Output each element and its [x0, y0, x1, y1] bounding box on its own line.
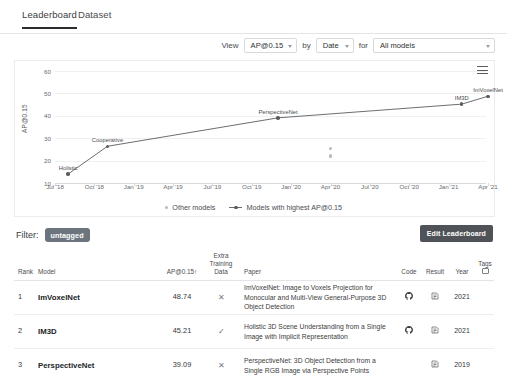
cell-paper[interactable]: PerspectiveNet: 3D Object Detection from… — [238, 356, 396, 376]
cell-model[interactable]: ImVoxelNet — [38, 292, 160, 303]
chart-point-label: Holistic — [59, 165, 78, 171]
legend-line-icon — [229, 206, 242, 210]
cross-icon: ✕ — [218, 361, 225, 370]
header-tags[interactable]: Tags — [476, 260, 494, 276]
cell-paper[interactable]: Holistic 3D Scene Understanding from a S… — [238, 322, 396, 342]
chart-point-label: Cooperative — [92, 137, 123, 143]
models-select[interactable]: All models — [373, 38, 495, 53]
filter-label: Filter: — [16, 230, 39, 240]
cell-year: 2019 — [448, 360, 476, 370]
legend-dot-icon — [165, 206, 168, 209]
leaderboard-page: Leaderboard Dataset View AP@0.15 by Date… — [0, 0, 507, 377]
chart-point-label: ImVoxelNet — [473, 87, 503, 93]
filter-row: Filter: untagged — [16, 228, 90, 242]
chevron-down-icon — [288, 45, 292, 48]
table-body: 1ImVoxelNet48.74✕ImVoxelNet: Image to Vo… — [14, 281, 494, 377]
chart-data-point[interactable] — [276, 116, 279, 119]
for-label: for — [359, 41, 368, 50]
github-icon[interactable] — [405, 328, 413, 335]
cell-paper[interactable]: ImVoxelNet: Image to Voxels Projection f… — [238, 283, 396, 313]
table-row[interactable]: 3PerspectiveNet39.09✕PerspectiveNet: 3D … — [14, 349, 494, 377]
cell-code[interactable] — [396, 292, 422, 303]
chart-controls: View AP@0.15 by Date for All models — [221, 38, 495, 53]
cell-extra-training-data: ✕ — [204, 292, 238, 304]
result-icon[interactable] — [431, 294, 439, 301]
cell-year: 2021 — [448, 292, 476, 302]
leaderboard-table: Rank Model AP@0.15↑ Extra Training Data … — [14, 252, 494, 377]
check-icon: ✓ — [218, 327, 225, 336]
groupby-select-value: Date — [323, 41, 339, 50]
chevron-down-icon — [486, 45, 490, 48]
header-year[interactable]: Year — [448, 268, 476, 276]
tab-bar: Leaderboard Dataset — [0, 0, 507, 34]
groupby-select[interactable]: Date — [316, 38, 354, 53]
cell-extra-training-data: ✕ — [204, 360, 238, 372]
filter-tag-untagged[interactable]: untagged — [45, 228, 90, 242]
table-row[interactable]: 1ImVoxelNet48.74✕ImVoxelNet: Image to Vo… — [14, 281, 494, 315]
cell-result[interactable] — [422, 292, 448, 303]
header-paper[interactable]: Paper — [238, 268, 396, 276]
cell-model[interactable]: PerspectiveNet — [38, 360, 160, 371]
cell-rank: 2 — [14, 326, 38, 337]
cell-extra-training-data: ✓ — [204, 326, 238, 338]
performance-chart: AP@0.15 102030405060Jul '18Oct '18Jan '1… — [14, 60, 495, 217]
edit-leaderboard-button[interactable]: Edit Leaderboard — [420, 225, 493, 242]
chart-legend: Other models Models with highest AP@0.15 — [0, 203, 507, 212]
cell-result[interactable] — [422, 360, 448, 371]
header-result[interactable]: Result — [422, 268, 448, 276]
github-icon[interactable] — [405, 294, 413, 301]
cell-model[interactable]: IM3D — [38, 326, 160, 337]
cell-result[interactable] — [422, 326, 448, 337]
legend-label-highest: Models with highest AP@0.15 — [246, 203, 342, 212]
table-header-row: Rank Model AP@0.15↑ Extra Training Data … — [14, 252, 494, 281]
view-label: View — [221, 41, 238, 50]
header-model[interactable]: Model — [38, 268, 160, 276]
cross-icon: ✕ — [218, 293, 225, 302]
cell-score: 45.21 — [160, 326, 204, 337]
header-extra-training-data[interactable]: Extra Training Data — [204, 252, 238, 276]
cell-rank: 1 — [14, 292, 38, 303]
cell-score: 48.74 — [160, 292, 204, 303]
chart-data-point[interactable] — [486, 95, 489, 98]
table-row[interactable]: 2IM3D45.21✓Holistic 3D Scene Understandi… — [14, 315, 494, 349]
header-code[interactable]: Code — [396, 268, 422, 276]
models-select-value: All models — [380, 41, 415, 50]
chart-data-point[interactable] — [66, 172, 69, 175]
by-label: by — [302, 41, 310, 50]
header-tags-label: Tags — [478, 260, 492, 267]
cell-rank: 3 — [14, 360, 38, 371]
metric-select[interactable]: AP@0.15 — [244, 38, 298, 53]
tab-dataset-label: Dataset — [78, 9, 111, 20]
header-score[interactable]: AP@0.15↑ — [160, 268, 204, 276]
chart-series-lines — [15, 61, 496, 218]
filter-icon[interactable] — [482, 268, 489, 274]
tab-leaderboard[interactable]: Leaderboard — [22, 9, 77, 29]
chart-data-point[interactable] — [329, 154, 332, 157]
result-icon[interactable] — [431, 328, 439, 335]
cell-year: 2021 — [448, 326, 476, 336]
cell-score: 39.09 — [160, 360, 204, 371]
legend-label-other: Other models — [172, 203, 215, 212]
legend-item-other-models[interactable]: Other models — [165, 203, 216, 212]
cell-code[interactable] — [396, 326, 422, 337]
result-icon[interactable] — [431, 362, 439, 369]
chart-point-label: IM3D — [455, 95, 469, 101]
chart-point-label: PerspectiveNet — [258, 109, 297, 115]
chevron-down-icon — [345, 45, 349, 48]
tab-dataset[interactable]: Dataset — [78, 9, 111, 27]
metric-select-value: AP@0.15 — [251, 41, 284, 50]
legend-item-highest[interactable]: Models with highest AP@0.15 — [229, 203, 342, 212]
tab-leaderboard-label: Leaderboard — [22, 9, 77, 20]
header-rank[interactable]: Rank — [14, 268, 38, 276]
